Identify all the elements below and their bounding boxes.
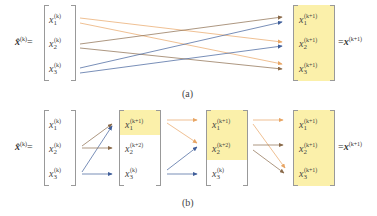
- bracket-right: [330, 5, 335, 81]
- arrow-b3-x2-to-x3: [253, 150, 284, 173]
- matrix-entry: x1(k): [49, 13, 61, 27]
- lhs-equals: =: [27, 141, 33, 152]
- lhs-superscript: (k): [20, 36, 27, 42]
- panel-b-stage2-arrows: [167, 120, 197, 174]
- matrix-entry: x2(k): [49, 37, 61, 51]
- panel-b-stage1-arrows: [82, 124, 112, 174]
- arrow-b1-x3-to-x1: [82, 126, 112, 172]
- matrix-entry: x2(k+1): [299, 142, 317, 156]
- panel-b-stage3-arrows: [253, 120, 285, 173]
- arrow-b2-x3-to-x2: [167, 147, 197, 170]
- bracket-right: [156, 110, 161, 186]
- matrix-entry: x3(k+1): [299, 62, 317, 76]
- bracket-right: [71, 110, 76, 186]
- bracket-right: [71, 5, 76, 81]
- panel-b-matrix-1: x1(k) x2(k) x3(k): [44, 110, 76, 186]
- matrix-entry: x2(k+2): [212, 142, 230, 156]
- panel-a-input-matrix: x1(k) x2(k) x3(k): [44, 5, 76, 81]
- matrix-entry: x3(k+1): [299, 167, 317, 181]
- panel-b-matrix-4: x1(k+1) x2(k+1) x3(k+1): [293, 110, 335, 186]
- lhs-equals: =: [27, 36, 33, 47]
- matrix-entry: x1(k): [49, 118, 61, 132]
- matrix-entry: x1(k+1): [212, 118, 230, 132]
- panel-b-lhs: x̂(k)=: [15, 141, 33, 152]
- panel-b-matrix-2: x1(k+1) x2(k+2) x3(k): [119, 110, 161, 186]
- bracket-left: [293, 110, 298, 186]
- matrix-entry: x3(k): [49, 167, 61, 181]
- panel-a-rhs: =x(k+1): [338, 36, 362, 47]
- rhs-superscript: (k+1): [349, 36, 362, 42]
- bracket-left: [206, 110, 211, 186]
- arrow-b1-x2-to-x1: [82, 124, 112, 146]
- arrow-a-x3-to-x2: [80, 46, 282, 73]
- panel-a-lhs: x̂(k)=: [15, 36, 33, 47]
- panel-a-arrows: [80, 17, 282, 73]
- panel-b-rhs: =x(k+1): [338, 141, 362, 152]
- panel-a-caption: (a): [182, 88, 193, 99]
- arrow-a-x1-to-x2: [80, 18, 282, 42]
- panel-b-caption: (b): [182, 197, 194, 208]
- matrix-entry: x2(k+1): [299, 37, 317, 51]
- matrix-entry: x3(k): [49, 62, 61, 76]
- bracket-left: [119, 110, 124, 186]
- matrix-entry: x3(k): [125, 167, 137, 181]
- panel-b-matrix-3: x1(k+1) x2(k+2) x3(k): [206, 110, 248, 186]
- matrix-entry: x2(k): [49, 142, 61, 156]
- matrix-entry: x1(k+1): [125, 118, 143, 132]
- matrix-entry: x1(k+1): [299, 118, 317, 132]
- arrow-a-x2-to-x1: [80, 17, 282, 44]
- arrow-b2-x1-to-x2: [167, 123, 197, 143]
- bracket-left: [293, 5, 298, 81]
- lhs-superscript: (k): [20, 141, 27, 147]
- arrow-a-x2-to-x3: [80, 48, 282, 69]
- arrow-b3-x1-to-x3: [253, 124, 285, 168]
- matrix-entry: x3(k): [212, 167, 224, 181]
- matrix-entry: x1(k+1): [299, 13, 317, 27]
- bracket-right: [243, 110, 248, 186]
- panel-a-output-matrix: x1(k+1) x2(k+1) x3(k+1): [293, 5, 335, 81]
- bracket-right: [330, 110, 335, 186]
- matrix-entry: x2(k+2): [125, 142, 143, 156]
- rhs-superscript: (k+1): [349, 141, 362, 147]
